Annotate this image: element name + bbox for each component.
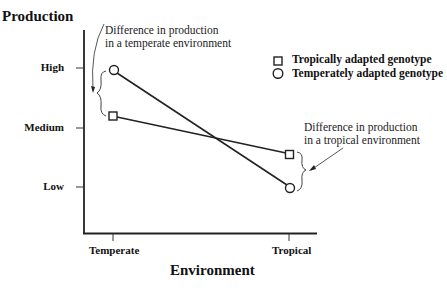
arrowhead-temperate — [91, 86, 95, 93]
legend-label-tropical-genotype: Tropically adapted genotype — [292, 53, 432, 65]
y-tick-label-high: High — [4, 61, 64, 73]
square-marker-temperate — [109, 112, 117, 120]
circle-marker-tropical — [286, 184, 295, 193]
x-axis-title: Environment — [170, 262, 255, 279]
annotation-temperate-line2: in a temperate environment — [105, 37, 231, 50]
arrowhead-tropical — [309, 165, 316, 171]
y-tick-label-medium: Medium — [4, 121, 64, 133]
arrow-tropical — [311, 148, 343, 170]
annotation-temperate-line1: Difference in production — [105, 24, 231, 37]
y-axis-title: Production — [2, 8, 73, 25]
legend-square-icon — [274, 57, 282, 65]
arrow-temperate — [92, 24, 104, 90]
annotation-tropical-line1: Difference in production — [304, 121, 420, 134]
square-marker-tropical — [286, 151, 294, 159]
x-tick-label-tropical: Tropical — [272, 244, 311, 256]
brace-temperate — [97, 71, 106, 116]
y-tick-label-low: Low — [4, 180, 64, 192]
series-line-tropical-genotype — [117, 117, 286, 153]
annotation-temperate: Difference in production in a temperate … — [105, 24, 231, 50]
circle-marker-temperate — [110, 66, 119, 75]
annotation-tropical: Difference in production in a tropical e… — [304, 121, 420, 147]
x-tick-label-temperate: Temperate — [89, 244, 139, 256]
brace-tropical — [297, 152, 306, 191]
annotation-tropical-line2: in a tropical environment — [304, 134, 420, 147]
series-line-temperate-genotype — [117, 73, 287, 185]
legend-circle-icon — [273, 69, 283, 79]
legend-label-temperate-genotype: Temperately adapted genotype — [292, 67, 443, 79]
